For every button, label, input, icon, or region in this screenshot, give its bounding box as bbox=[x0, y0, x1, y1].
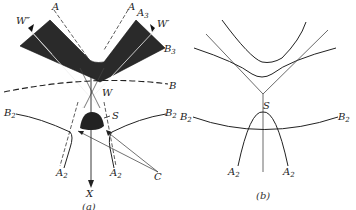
v-line-left bbox=[206, 34, 263, 94]
panel-b: S B2 B2 A2 A2 (b) bbox=[179, 20, 350, 201]
label-a-right: A bbox=[127, 1, 135, 12]
caption-b: (b) bbox=[256, 190, 270, 201]
curve-b2-right bbox=[109, 114, 166, 168]
label-b: B bbox=[168, 80, 176, 91]
label-b2-left: B2 bbox=[179, 111, 192, 124]
pointer-c-left bbox=[78, 131, 158, 172]
caption-a: (a) bbox=[82, 201, 96, 210]
label-x: X bbox=[85, 188, 94, 199]
curve-upper bbox=[222, 20, 306, 63]
curve-b2-left bbox=[16, 114, 72, 168]
label-a2-left: A2 bbox=[227, 166, 240, 179]
diagram-canvas: W″ A A A3 W′ B3 B W S B2 B2 A2 A2 X C (a… bbox=[0, 0, 356, 210]
label-a2-left: A2 bbox=[55, 167, 68, 180]
panel-a: W″ A A A3 W′ B3 B W S B2 B2 A2 A2 X C (a… bbox=[3, 1, 177, 210]
curve-b2 bbox=[193, 117, 338, 130]
label-s: S bbox=[112, 110, 119, 121]
label-b2-left: B2 bbox=[3, 107, 16, 120]
label-w-prime: W′ bbox=[157, 18, 170, 29]
label-b2-right: B2 bbox=[164, 107, 177, 120]
arrow-x-icon bbox=[88, 180, 94, 188]
label-a-left: A bbox=[51, 1, 59, 12]
dashed-a2-left bbox=[60, 102, 78, 166]
label-b3: B3 bbox=[163, 43, 176, 56]
label-w-dprime: W″ bbox=[16, 15, 30, 26]
label-a2-right: A2 bbox=[282, 166, 295, 179]
label-s: S bbox=[263, 100, 270, 111]
label-a3: A3 bbox=[136, 7, 149, 20]
label-a2-right: A2 bbox=[109, 167, 122, 180]
label-c: C bbox=[154, 171, 162, 182]
label-w: W bbox=[102, 87, 113, 98]
label-b2-right: B2 bbox=[337, 111, 350, 124]
shaded-region bbox=[20, 20, 165, 82]
s-region bbox=[80, 112, 104, 130]
dashed-curve-b bbox=[4, 80, 168, 92]
